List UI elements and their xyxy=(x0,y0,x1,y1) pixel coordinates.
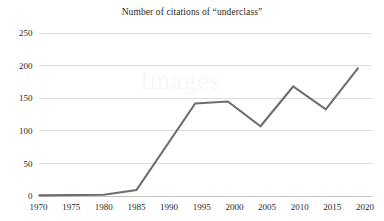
y-axis-tick-label: 250 xyxy=(19,28,33,38)
x-axis-tick-label: 1975 xyxy=(62,202,81,212)
x-axis-tick-label: 1990 xyxy=(160,202,179,212)
y-axis-tick-labels: 050100150200250 xyxy=(19,28,33,201)
chart-container: Images Number of citations of “underclas… xyxy=(0,0,384,221)
gridlines xyxy=(39,33,372,196)
series-line-citations xyxy=(39,68,359,196)
x-axis-tick-label: 2000 xyxy=(225,202,244,212)
x-axis-tick-label: 2015 xyxy=(323,202,342,212)
x-axis-tick-label: 2005 xyxy=(258,202,277,212)
y-axis-tick-label: 200 xyxy=(19,61,33,71)
y-axis-tick-label: 150 xyxy=(19,93,33,103)
data-series xyxy=(39,68,359,196)
x-axis-tick-label: 2010 xyxy=(291,202,310,212)
x-axis-tick-label: 1970 xyxy=(30,202,49,212)
line-chart-plot: 050100150200250 197019751980198519901995… xyxy=(0,0,384,221)
x-axis-tick-labels: 1970197519801985199019952000200520102015… xyxy=(30,202,375,212)
x-axis-tick-label: 1980 xyxy=(95,202,114,212)
x-axis-tick-label: 1985 xyxy=(127,202,146,212)
y-axis-tick-label: 0 xyxy=(28,191,33,201)
y-axis-tick-label: 50 xyxy=(24,159,34,169)
x-axis-tick-label: 1995 xyxy=(193,202,212,212)
y-axis-tick-label: 100 xyxy=(19,126,33,136)
x-axis-tick-label: 2020 xyxy=(356,202,375,212)
